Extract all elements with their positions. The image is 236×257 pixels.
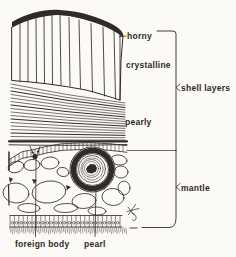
- label-foreign-body: foreign body: [15, 239, 69, 249]
- mantle-bracket: [130, 151, 176, 229]
- label-crystalline: crystalline: [126, 60, 171, 70]
- prism-columns-graphic: [20, 15, 120, 101]
- label-shell-layers: shell layers: [181, 83, 230, 93]
- artist-monogram: [127, 205, 139, 221]
- mantle-fringe-graphic: [10, 228, 127, 234]
- label-pearl: pearl: [84, 239, 106, 249]
- pearly-layer-graphic: [11, 84, 125, 140]
- foreign-body-pointer-line: [36, 160, 37, 237]
- label-pointer-lines: [36, 36, 127, 237]
- mantle-inner-epithelium-graphic: [10, 216, 122, 228]
- label-mantle: mantle: [181, 183, 210, 193]
- shell-layers-pointer: [176, 84, 180, 91]
- label-pearly: pearly: [125, 117, 152, 127]
- pearl-formation-illustration: [0, 0, 236, 257]
- label-horny: horny: [127, 31, 152, 41]
- pearl-formation-diagram: horny crystalline pearly shell layers ma…: [0, 0, 236, 257]
- pearl-graphic: [70, 147, 115, 192]
- horny-pointer-line: [120, 36, 127, 37]
- horny-layer-graphic: [12, 10, 123, 38]
- shell-layers-bracket: [157, 31, 176, 151]
- mantle-pointer: [176, 184, 180, 191]
